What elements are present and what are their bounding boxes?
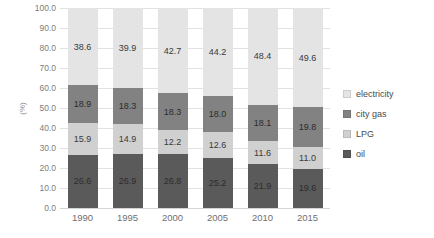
bar-segment-LPG[interactable]: 11.6 [248,141,278,164]
legend-item-city-gas[interactable]: city gas [343,104,433,124]
y-axis-tick-label: 100.0 [18,3,56,13]
bar-segment-city-gas[interactable]: 19.8 [293,107,323,147]
bar[interactable]: 49.619.811.019.6 [293,8,323,208]
bar-group: 38.618.915.926.6 [60,8,105,208]
y-axis-tick-label: 0.0 [18,203,56,213]
bar-segment-electricity[interactable]: 42.7 [158,8,188,93]
bar-segment-value-label: 26.8 [158,176,188,186]
bar-segment-value-label: 12.2 [158,137,188,147]
bar[interactable]: 39.918.314.926.9 [113,8,143,208]
legend-item-label: electricity [356,89,394,99]
y-axis-tick-label: 40.0 [18,123,56,133]
bar-segment-value-label: 18.0 [203,109,233,119]
bar-segment-value-label: 48.4 [248,51,278,61]
bar-segment-city-gas[interactable]: 18.3 [158,93,188,130]
bar-segment-value-label: 39.9 [113,43,143,53]
bar-segment-value-label: 14.9 [113,134,143,144]
x-axis-tick-label: 2000 [150,212,195,223]
bar-segment-value-label: 38.6 [68,42,98,52]
bar-segment-LPG[interactable]: 12.6 [203,132,233,157]
bar-segment-value-label: 44.2 [203,47,233,57]
legend-item-label: LPG [356,129,374,139]
plot-area: 38.618.915.926.639.918.314.926.942.718.3… [60,8,330,208]
legend-swatch-icon [343,130,351,138]
bar-segment-oil[interactable]: 25.2 [203,158,233,208]
legend-item-label: oil [356,149,365,159]
legend-item-LPG[interactable]: LPG [343,124,433,144]
gridline [60,208,330,209]
legend-swatch-icon [343,110,351,118]
bar-segment-value-label: 12.6 [203,140,233,150]
x-axis-tick-labels: 199019952000200520102015 [60,212,330,232]
legend-item-label: city gas [356,109,387,119]
bar-segment-value-label: 18.1 [248,118,278,128]
legend-item-oil[interactable]: oil [343,144,433,164]
bar-segment-electricity[interactable]: 39.9 [113,8,143,88]
bar-segment-oil[interactable]: 26.6 [68,155,98,208]
bar-group: 49.619.811.019.6 [285,8,330,208]
bar[interactable]: 38.618.915.926.6 [68,8,98,208]
y-axis-tick-label: 30.0 [18,143,56,153]
bar-segment-LPG[interactable]: 15.9 [68,123,98,155]
x-axis-tick-label: 2005 [195,212,240,223]
bar-segment-value-label: 11.0 [293,153,323,163]
bar-group: 42.718.312.226.8 [150,8,195,208]
bar-segment-electricity[interactable]: 38.6 [68,8,98,85]
bar-segment-value-label: 26.9 [113,176,143,186]
bar-group: 48.418.111.621.9 [240,8,285,208]
bar-segment-LPG[interactable]: 11.0 [293,147,323,169]
legend: electricitycity gasLPGoil [343,84,433,164]
legend-item-electricity[interactable]: electricity [343,84,433,104]
bar-segment-value-label: 25.2 [203,178,233,188]
bar-group: 44.218.012.625.2 [195,8,240,208]
y-axis-tick-labels: 0.010.020.030.040.050.060.070.080.090.01… [18,8,56,208]
x-axis-tick-label: 2015 [285,212,330,223]
bar-segment-city-gas[interactable]: 18.1 [248,105,278,141]
bar-group: 39.918.314.926.9 [105,8,150,208]
bar[interactable]: 44.218.012.625.2 [203,8,233,208]
legend-swatch-icon [343,150,351,158]
bar[interactable]: 48.418.111.621.9 [248,8,278,208]
bar-segment-electricity[interactable]: 49.6 [293,8,323,107]
bar-segment-value-label: 18.3 [158,107,188,117]
y-axis-tick-label: 90.0 [18,23,56,33]
bar-segment-value-label: 49.6 [293,53,323,63]
legend-swatch-icon [343,90,351,98]
y-axis-tick-label: 50.0 [18,103,56,113]
bar-segment-value-label: 26.6 [68,176,98,186]
bar-segment-value-label: 19.8 [293,122,323,132]
bar-segment-value-label: 15.9 [68,134,98,144]
y-axis-tick-label: 70.0 [18,63,56,73]
bar-segment-oil[interactable]: 26.8 [158,154,188,208]
bar-segment-value-label: 42.7 [158,46,188,56]
y-axis-tick-label: 20.0 [18,163,56,173]
bar-segment-LPG[interactable]: 14.9 [113,124,143,154]
bar-segment-LPG[interactable]: 12.2 [158,130,188,154]
bar-segment-city-gas[interactable]: 18.0 [203,96,233,132]
x-axis-tick-label: 1995 [105,212,150,223]
bar-series-container: 38.618.915.926.639.918.314.926.942.718.3… [60,8,330,208]
x-axis-tick-label: 1990 [60,212,105,223]
bar-segment-oil[interactable]: 26.9 [113,154,143,208]
bar-segment-value-label: 19.6 [293,183,323,193]
y-axis-tick-label: 10.0 [18,183,56,193]
y-axis-tick-label: 60.0 [18,83,56,93]
bar-segment-city-gas[interactable]: 18.3 [113,88,143,125]
bar-segment-electricity[interactable]: 44.2 [203,8,233,96]
bar-segment-value-label: 11.6 [248,148,278,158]
x-axis-tick-label: 2010 [240,212,285,223]
bar-segment-value-label: 18.9 [68,99,98,109]
bar[interactable]: 42.718.312.226.8 [158,8,188,208]
bar-segment-oil[interactable]: 19.6 [293,169,323,208]
bar-segment-city-gas[interactable]: 18.9 [68,85,98,123]
bar-segment-oil[interactable]: 21.9 [248,164,278,208]
y-axis-tick-label: 80.0 [18,43,56,53]
stacked-bar-chart: (%) 0.010.020.030.040.050.060.070.080.09… [0,0,434,238]
bar-segment-value-label: 21.9 [248,181,278,191]
bar-segment-electricity[interactable]: 48.4 [248,8,278,105]
bar-segment-value-label: 18.3 [113,101,143,111]
